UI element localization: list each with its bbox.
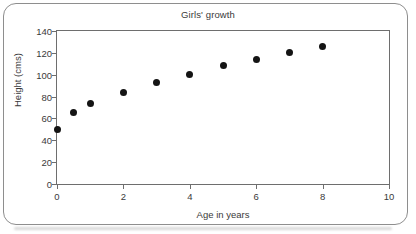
- y-axis-title: Height (cms): [12, 53, 23, 107]
- x-tick-mark-10: [389, 184, 390, 189]
- x-tick-label: 8: [320, 191, 325, 202]
- chart-figure: Girls' growth Height (cms) Age in years …: [0, 0, 416, 234]
- data-point: [220, 62, 227, 69]
- data-point: [70, 109, 77, 116]
- y-tick-label: 80: [41, 91, 52, 102]
- y-tick-label: 20: [41, 157, 52, 168]
- data-point: [87, 100, 94, 107]
- x-tick-mark-4: [190, 184, 191, 189]
- x-axis-title: Age in years: [56, 209, 390, 220]
- x-tick-mark-8: [323, 184, 324, 189]
- y-tick-label: 40: [41, 135, 52, 146]
- y-tick-mark: [52, 118, 57, 119]
- y-tick-mark: [52, 75, 57, 76]
- y-tick-label: 0: [47, 179, 52, 190]
- x-tick-mark-0: [57, 184, 58, 189]
- x-tick-label: 4: [187, 191, 192, 202]
- y-tick-mark: [52, 162, 57, 163]
- y-tick-label: 140: [36, 26, 52, 37]
- data-point: [186, 71, 193, 78]
- chart-title: Girls' growth: [0, 9, 416, 20]
- y-tick-label: 120: [36, 47, 52, 58]
- x-tick-label: 10: [384, 191, 395, 202]
- y-tick-label: 100: [36, 69, 52, 80]
- data-point: [253, 56, 260, 63]
- y-tick-mark: [52, 31, 57, 32]
- y-tick-label: 60: [41, 113, 52, 124]
- y-tick-mark: [52, 97, 57, 98]
- card-drop-shadow: [14, 227, 392, 230]
- data-point: [120, 89, 127, 96]
- y-tick-mark: [52, 53, 57, 54]
- x-tick-mark-2: [123, 184, 124, 189]
- x-tick-label: 6: [254, 191, 259, 202]
- x-tick-label: 0: [54, 191, 59, 202]
- data-point: [286, 49, 293, 56]
- plot-area: 020406080100120140 0246810: [56, 30, 390, 185]
- y-tick-mark: [52, 140, 57, 141]
- data-point: [54, 126, 61, 133]
- x-tick-mark-6: [256, 184, 257, 189]
- data-point: [153, 79, 160, 86]
- x-tick-label: 2: [121, 191, 126, 202]
- data-point: [319, 43, 326, 50]
